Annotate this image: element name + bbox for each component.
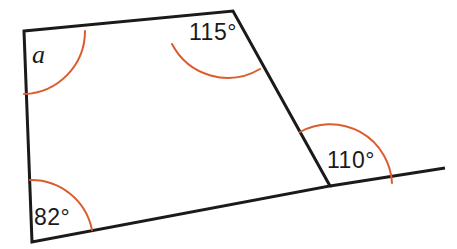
unknown-angle-label: a xyxy=(32,42,45,68)
bottom-left-angle-label: 82° xyxy=(34,206,70,229)
exterior-angle-label: 110° xyxy=(327,149,375,172)
top-right-angle-label: 115° xyxy=(189,21,237,44)
geometry-figure: a 115° 110° 82° xyxy=(0,0,457,249)
